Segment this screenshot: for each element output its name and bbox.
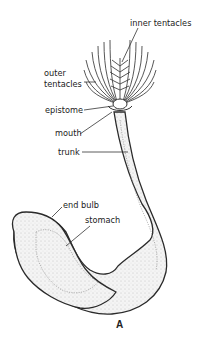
figure-caption: A	[116, 319, 123, 330]
epistome	[113, 99, 127, 109]
label-end-bulb: end bulb	[63, 200, 99, 210]
phoronid-diagram: inner tentacles outer tentacles epistome…	[0, 0, 206, 346]
label-stomach: stomach	[85, 215, 120, 225]
label-outer-tentacles-2: tentacles	[44, 79, 82, 89]
label-epistome: epistome	[45, 105, 83, 115]
label-mouth: mouth	[55, 128, 82, 138]
label-trunk: trunk	[58, 147, 80, 157]
leader-mouth	[80, 112, 112, 134]
outer-tentacles-left	[84, 40, 118, 104]
end-bulb	[13, 212, 117, 308]
leader-end-bulb	[52, 207, 62, 217]
tentacle-crown	[84, 40, 156, 111]
label-inner-tentacles: inner tentacles	[130, 18, 191, 28]
outer-tentacles-right	[122, 40, 156, 104]
leader-stomach	[66, 226, 90, 246]
label-outer-tentacles-1: outer	[44, 68, 66, 78]
leader-epistome	[84, 106, 113, 110]
